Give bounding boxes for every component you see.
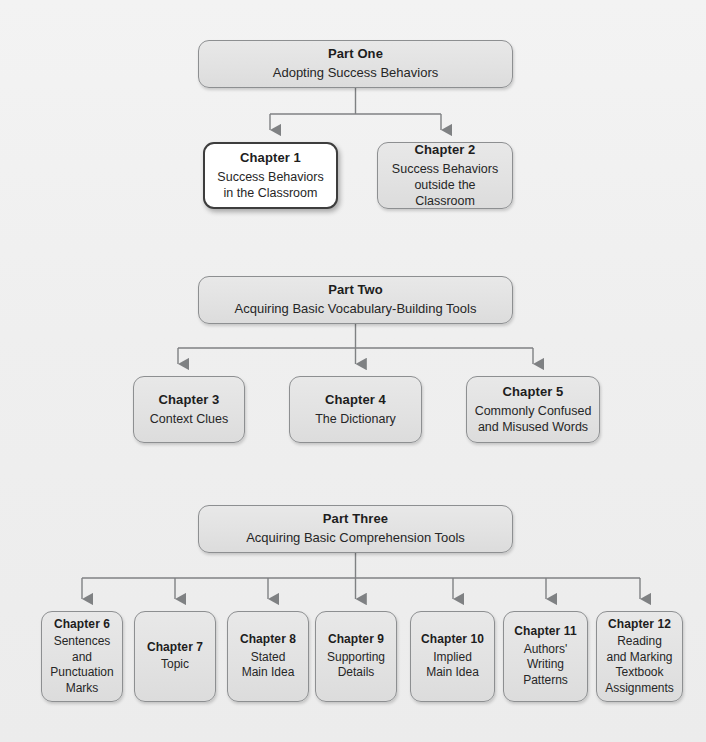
- chapter-8-subtitle: Stated Main Idea: [242, 650, 295, 681]
- chapter-1-subtitle: Success Behaviors in the Classroom: [217, 169, 323, 201]
- chapter-10-title: Chapter 10: [421, 632, 484, 647]
- part-two-subtitle: Acquiring Basic Vocabulary-Building Tool…: [235, 301, 477, 318]
- chapter-4-box[interactable]: Chapter 4 The Dictionary: [289, 376, 422, 443]
- chapter-2-subtitle: Success Behaviors outside the Classroom: [384, 161, 506, 209]
- part-one-title: Part One: [328, 46, 383, 63]
- part-three-title: Part Three: [323, 511, 388, 528]
- chapter-3-subtitle: Context Clues: [150, 411, 229, 427]
- chapter-8-box[interactable]: Chapter 8 Stated Main Idea: [227, 611, 309, 702]
- part-three-box[interactable]: Part Three Acquiring Basic Comprehension…: [198, 505, 513, 553]
- chapter-2-box[interactable]: Chapter 2 Success Behaviors outside the …: [377, 142, 513, 209]
- chapter-12-title: Chapter 12: [608, 617, 671, 632]
- chapter-3-title: Chapter 3: [159, 392, 220, 409]
- chapter-9-box[interactable]: Chapter 9 Supporting Details: [315, 611, 397, 702]
- chapter-9-subtitle: Supporting Details: [327, 650, 385, 681]
- chapter-11-title: Chapter 11: [514, 624, 576, 639]
- chapter-7-subtitle: Topic: [161, 657, 189, 673]
- chapter-10-subtitle: Implied Main Idea: [426, 650, 479, 681]
- chapter-5-subtitle: Commonly Confused and Misused Words: [475, 403, 592, 435]
- chapter-6-subtitle: Sentences and Punctuation Marks: [50, 634, 113, 696]
- chapter-12-subtitle: Reading and Marking Textbook Assignments: [605, 634, 674, 696]
- diagram-canvas: Part One Adopting Success Behaviors Chap…: [0, 0, 706, 742]
- chapter-7-box[interactable]: Chapter 7 Topic: [134, 611, 216, 702]
- part-one-subtitle: Adopting Success Behaviors: [273, 65, 438, 82]
- part-two-title: Part Two: [328, 282, 383, 299]
- chapter-2-title: Chapter 2: [415, 142, 476, 159]
- chapter-5-title: Chapter 5: [503, 384, 564, 401]
- chapter-11-box[interactable]: Chapter 11 Authors' Writing Patterns: [503, 611, 588, 702]
- part-one-box[interactable]: Part One Adopting Success Behaviors: [198, 40, 513, 88]
- chapter-5-box[interactable]: Chapter 5 Commonly Confused and Misused …: [466, 376, 600, 443]
- chapter-1-title: Chapter 1: [240, 150, 301, 167]
- chapter-6-title: Chapter 6: [54, 617, 110, 632]
- chapter-7-title: Chapter 7: [147, 640, 203, 655]
- part-three-subtitle: Acquiring Basic Comprehension Tools: [246, 530, 465, 547]
- chapter-4-title: Chapter 4: [325, 392, 386, 409]
- chapter-10-box[interactable]: Chapter 10 Implied Main Idea: [410, 611, 495, 702]
- part-two-box[interactable]: Part Two Acquiring Basic Vocabulary-Buil…: [198, 276, 513, 324]
- chapter-4-subtitle: The Dictionary: [315, 411, 396, 427]
- chapter-12-box[interactable]: Chapter 12 Reading and Marking Textbook …: [596, 611, 683, 702]
- chapter-3-box[interactable]: Chapter 3 Context Clues: [133, 376, 245, 443]
- chapter-6-box[interactable]: Chapter 6 Sentences and Punctuation Mark…: [41, 611, 123, 702]
- chapter-8-title: Chapter 8: [240, 632, 296, 647]
- chapter-1-box[interactable]: Chapter 1 Success Behaviors in the Class…: [203, 142, 338, 209]
- chapter-9-title: Chapter 9: [328, 632, 384, 647]
- chapter-11-subtitle: Authors' Writing Patterns: [523, 642, 568, 689]
